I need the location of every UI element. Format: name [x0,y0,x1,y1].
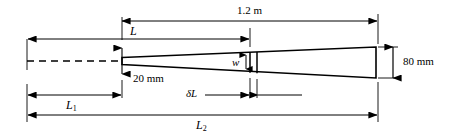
label-overall-length: 1.2 m [237,5,262,16]
label-length-L1-subscript: 1 [73,104,77,113]
label-depth-right: 80 mm [403,56,434,67]
label-length-L2: L2 [196,119,207,131]
label-element-length: δL [186,88,197,99]
beam-diagram: 1.2 m L 20 mm 80 mm w δL L1 L2 [0,0,458,138]
label-length-L2-subscript: 2 [203,124,207,133]
label-length-L1-base: L [66,98,73,112]
label-length-L: L [130,25,137,37]
label-length-L2-base: L [196,118,203,132]
label-depth-left: 20 mm [133,73,164,84]
label-element-depth: w [232,57,239,68]
label-length-L1: L1 [66,99,77,111]
beam-drawing [0,0,458,138]
